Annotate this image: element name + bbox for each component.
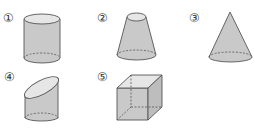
label-3: ③ <box>189 11 200 25</box>
solid-4-cut-cylinder: ④ <box>4 70 62 121</box>
solids-diagram: ① ② ③ ④ ⑤ <box>0 0 254 131</box>
solid-2-frustum: ② <box>97 11 156 60</box>
label-4: ④ <box>4 70 15 84</box>
solid-3-cone: ③ <box>189 11 252 62</box>
label-5: ⑤ <box>97 70 108 84</box>
label-2: ② <box>97 11 108 25</box>
label-1: ① <box>3 11 14 25</box>
solid-1-cylinder: ① <box>3 11 60 63</box>
solid-5-cube: ⑤ <box>97 70 162 120</box>
